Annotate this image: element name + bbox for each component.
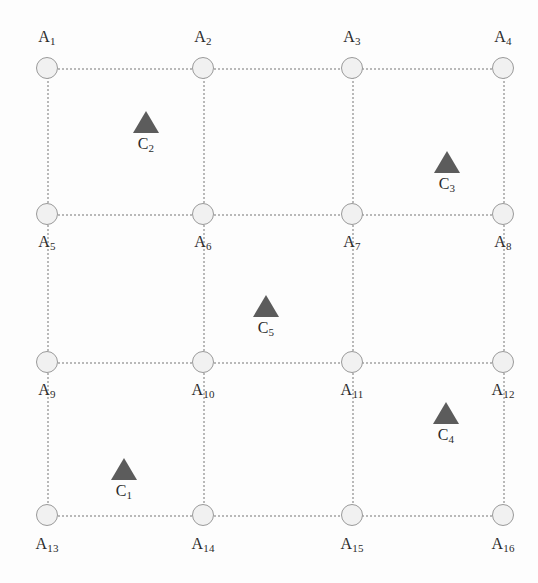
label-subscript: 2 [206,35,212,47]
cluster-head-marker-c4[interactable]: C4 [433,402,459,444]
label-subscript: 4 [506,35,512,47]
label-subscript: 2 [149,142,155,154]
label-base: A [491,381,503,398]
grid-node-label-a8: A8 [494,233,511,251]
label-base: C [116,482,127,499]
label-base: C [438,426,449,443]
label-base: A [38,28,50,45]
grid-edge-vertical [47,68,49,515]
label-subscript: 9 [50,388,56,400]
triangle-icon [434,151,460,173]
triangle-icon [253,295,279,317]
label-subscript: 11 [352,388,363,400]
label-subscript: 15 [352,542,363,554]
label-base: A [494,233,506,250]
grid-node-a9[interactable] [36,351,58,373]
grid-node-label-a12: A12 [491,381,514,399]
grid-node-label-a16: A16 [491,535,514,553]
cluster-head-label-c3: C3 [434,175,460,193]
grid-node-a14[interactable] [192,504,214,526]
label-base: A [191,535,203,552]
label-subscript: 1 [50,35,56,47]
label-subscript: 7 [355,240,361,252]
grid-node-label-a10: A10 [191,381,214,399]
grid-edge-vertical [352,68,354,515]
grid-node-label-a13: A13 [35,535,58,553]
label-base: A [343,28,355,45]
cluster-head-marker-c2[interactable]: C2 [133,111,159,153]
grid-node-a8[interactable] [492,203,514,225]
grid-edge-horizontal [47,214,503,216]
label-subscript: 14 [203,542,214,554]
cluster-head-marker-c1[interactable]: C1 [111,458,137,500]
grid-node-label-a5: A5 [38,233,55,251]
label-subscript: 10 [203,388,214,400]
label-subscript: 8 [506,240,512,252]
grid-node-a3[interactable] [341,57,363,79]
grid-edge-vertical [203,68,205,515]
grid-node-a13[interactable] [36,504,58,526]
label-base: A [341,381,353,398]
cluster-head-label-c4: C4 [433,426,459,444]
grid-node-a6[interactable] [192,203,214,225]
grid-node-a4[interactable] [492,57,514,79]
label-base: C [258,319,269,336]
cluster-head-label-c5: C5 [253,319,279,337]
grid-node-label-a6: A6 [194,233,211,251]
grid-node-label-a14: A14 [191,535,214,553]
grid-node-a2[interactable] [192,57,214,79]
grid-edge-horizontal [47,362,503,364]
label-subscript: 5 [269,326,275,338]
cluster-head-marker-c5[interactable]: C5 [253,295,279,337]
label-subscript: 3 [450,182,456,194]
grid-node-a16[interactable] [492,504,514,526]
label-base: C [138,135,149,152]
label-subscript: 13 [47,542,58,554]
label-base: A [340,535,352,552]
cluster-head-label-c1: C1 [111,482,137,500]
label-base: A [38,381,50,398]
label-base: A [35,535,47,552]
label-subscript: 6 [206,240,212,252]
grid-node-label-a1: A1 [38,28,55,46]
grid-edge-horizontal [47,68,503,70]
label-subscript: 3 [355,35,361,47]
grid-node-label-a9: A9 [38,381,55,399]
triangle-icon [433,402,459,424]
label-base: A [494,28,506,45]
triangle-icon [133,111,159,133]
grid-node-a12[interactable] [492,351,514,373]
cluster-head-label-c2: C2 [133,135,159,153]
grid-node-a15[interactable] [341,504,363,526]
label-base: A [343,233,355,250]
label-subscript: 4 [449,433,455,445]
cluster-head-marker-c3[interactable]: C3 [434,151,460,193]
label-subscript: 16 [503,542,514,554]
triangle-icon [111,458,137,480]
grid-node-label-a7: A7 [343,233,360,251]
grid-node-a7[interactable] [341,203,363,225]
label-base: A [194,233,206,250]
grid-node-label-a15: A15 [340,535,363,553]
label-subscript: 5 [50,240,56,252]
label-base: A [38,233,50,250]
grid-edge-horizontal [47,515,503,517]
grid-edge-vertical [503,68,505,515]
label-base: A [194,28,206,45]
grid-node-a11[interactable] [341,351,363,373]
grid-node-label-a3: A3 [343,28,360,46]
grid-node-label-a4: A4 [494,28,511,46]
grid-node-label-a2: A2 [194,28,211,46]
grid-node-a5[interactable] [36,203,58,225]
label-subscript: 12 [503,388,514,400]
grid-network-diagram: A1A2A3A4A5A6A7A8A9A10A11A12A13A14A15A16 … [0,0,538,583]
label-base: A [191,381,203,398]
grid-node-a1[interactable] [36,57,58,79]
grid-node-a10[interactable] [192,351,214,373]
grid-node-label-a11: A11 [341,381,364,399]
label-base: C [439,175,450,192]
label-base: A [491,535,503,552]
label-subscript: 1 [127,489,133,501]
